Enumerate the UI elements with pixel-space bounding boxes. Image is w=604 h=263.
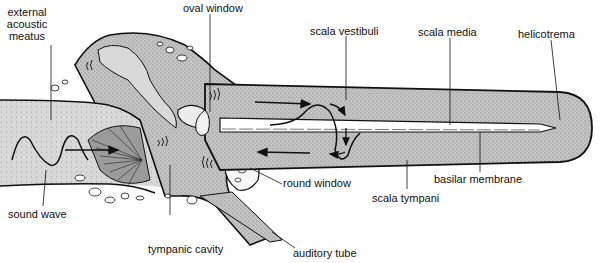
label-round-window: round window [283,177,351,189]
label-external-acoustic-meatus: external acoustic meatus [4,6,50,42]
label-tympanic-cavity: tympanic cavity [148,243,223,255]
diagram-canvas [0,0,604,263]
label-helicotrema: helicotrema [518,28,575,40]
canal-lower-wall [0,184,155,193]
label-line: acoustic [4,18,50,30]
label-auditory-tube: auditory tube [293,247,357,259]
ear-cochlea-diagram: external acoustic meatus oval window sca… [0,0,604,263]
label-line: meatus [4,30,50,42]
label-scala-media: scala media [418,26,477,38]
label-scala-vestibuli: scala vestibuli [310,25,378,37]
flow-arrow-tympani [258,152,310,153]
label-oval-window: oval window [183,2,243,14]
label-scala-tympani: scala tympani [372,192,439,204]
label-line: external [4,6,50,18]
label-sound-wave: sound wave [8,208,67,220]
label-basilar-membrane: basilar membrane [434,173,522,185]
